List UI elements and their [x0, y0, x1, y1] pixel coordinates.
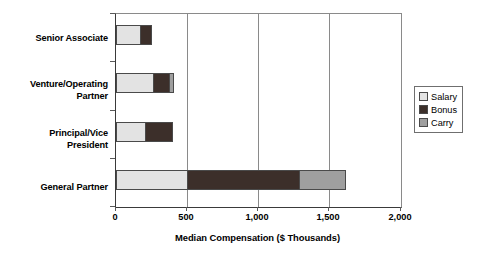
- legend-item-carry: Carry: [419, 116, 457, 129]
- bar-segment-carry: [299, 170, 346, 190]
- chart-legend: Salary Bonus Carry: [414, 86, 463, 133]
- legend-item-bonus: Bonus: [419, 103, 457, 116]
- bar-venture-operating-partner: [116, 73, 174, 93]
- bar-segment-carry: [169, 73, 174, 93]
- legend-label-carry: Carry: [431, 118, 453, 128]
- x-axis-tick-500: [186, 207, 187, 211]
- bar-segment-bonus: [140, 25, 151, 45]
- category-label-line1: Principal/Vice: [4, 128, 108, 140]
- x-axis-ticklabel-1000: 1,000: [234, 212, 280, 222]
- x-axis-tick-2000: [400, 207, 401, 211]
- bar-general-partner: [116, 170, 346, 190]
- x-axis-tick-0: [115, 207, 116, 211]
- legend-label-bonus: Bonus: [431, 105, 457, 115]
- category-label-venture-operating-partner: Venture/Operating Partner: [4, 79, 108, 102]
- bar-senior-associate: [116, 25, 152, 45]
- x-axis-ticklabel-0: 0: [92, 212, 138, 222]
- x-axis-ticklabel-500: 500: [163, 212, 209, 222]
- legend-swatch-carry-icon: [419, 118, 428, 127]
- category-label-line1: General Partner: [4, 182, 108, 194]
- legend-swatch-salary-icon: [419, 92, 428, 101]
- bar-segment-bonus: [187, 170, 299, 190]
- chart-container: Senior Associate Venture/Operating Partn…: [0, 0, 488, 260]
- category-label-line2: President: [4, 140, 108, 152]
- bar-principal-vice-president: [116, 122, 173, 142]
- legend-label-salary: Salary: [431, 92, 457, 102]
- x-axis-ticklabel-1500: 1,500: [305, 212, 351, 222]
- bar-segment-salary: [116, 73, 153, 93]
- category-label-general-partner: General Partner: [4, 182, 108, 194]
- legend-item-salary: Salary: [419, 90, 457, 103]
- x-axis-tick-1000: [257, 207, 258, 211]
- x-axis-ticklabel-2000: 2,000: [377, 212, 423, 222]
- bar-segment-salary: [116, 170, 187, 190]
- bar-segment-bonus: [145, 122, 174, 142]
- bar-segment-salary: [116, 25, 140, 45]
- category-label-line2: Partner: [4, 91, 108, 103]
- x-axis-title: Median Compensation ($ Thousands): [115, 232, 400, 243]
- category-label-principal-vice-president: Principal/Vice President: [4, 128, 108, 151]
- legend-swatch-bonus-icon: [419, 105, 428, 114]
- category-label-senior-associate: Senior Associate: [4, 33, 108, 45]
- plot-area: [115, 13, 402, 208]
- category-label-line1: Venture/Operating: [4, 79, 108, 91]
- x-axis-tick-1500: [328, 207, 329, 211]
- bar-segment-bonus: [153, 73, 169, 93]
- category-label-line1: Senior Associate: [4, 33, 108, 45]
- bar-segment-salary: [116, 122, 145, 142]
